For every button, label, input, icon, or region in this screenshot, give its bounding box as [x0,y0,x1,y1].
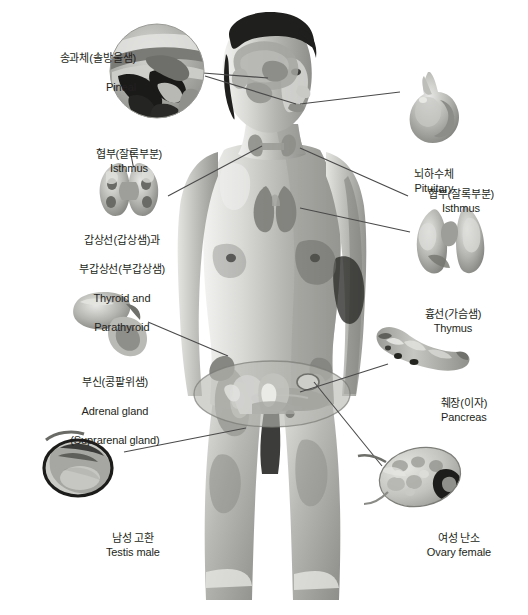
label-testis-english: Testis male [106,546,160,558]
label-pancreas: 췌장(이자) Pancreas [398,381,518,439]
label-pineal-english: Pineal [106,81,136,93]
label-isthmus-right-korean: 협부(잘록부분) [428,188,495,200]
label-adrenal: 부신(콩팥위샘) Adrenal gland (Suprarenal gland… [44,360,174,462]
label-thyroid-english-1: Thyroid and [93,292,150,304]
label-thyroid-english-2: Parathyroid [94,321,149,333]
label-thymus-english: Thymus [434,322,473,334]
label-isthmus-left-english: Isthmus [110,162,148,174]
label-testis-korean: 남성 고환 [112,532,155,544]
label-ovary: 여성 난소 Ovary female [386,516,520,574]
label-pineal-korean: 송과체(솔방울샘) [60,52,136,64]
label-ovary-korean: 여성 난소 [438,532,481,544]
body-figure [178,12,367,600]
label-isthmus-right-english: Isthmus [442,202,480,214]
ovary-ligament [358,455,386,462]
label-isthmus-right: 협부(잘록부분) Isthmus [390,172,520,230]
label-adrenal-english-2: (Suprarenal gland) [70,434,159,446]
label-thymus: 흉선(가슴샘) Thymus [382,292,512,350]
pelvis-oval-overlay [194,361,350,427]
label-thyroid-korean-1: 갑상선(갑상샘)과 [84,234,160,246]
label-thymus-korean: 흉선(가슴샘) [425,308,482,320]
label-ovary-english: Ovary female [427,546,491,558]
label-thyroid-parathyroid: 갑상선(갑상샘)과 부갑상선(부갑상샘) Thyroid and Parathy… [56,218,176,349]
label-pancreas-korean: 췌장(이자) [441,397,488,409]
label-adrenal-korean: 부신(콩팥위샘) [82,376,149,388]
label-isthmus-left: 협부(잘록부분) Isthmus [58,132,188,190]
ovary-inset [358,440,466,514]
label-thyroid-korean-2: 부갑상선(부갑상샘) [79,263,165,275]
label-adrenal-english-1: Adrenal gland [82,405,149,417]
pituitary-inset [410,72,459,143]
leader-pituitary [300,92,400,104]
label-isthmus-left-korean: 협부(잘록부분) [96,148,163,160]
label-testis: 남성 고환 Testis male [62,516,192,574]
label-pineal: 송과체(솔방울샘) Pineal [26,36,136,109]
endocrine-diagram: 송과체(솔방울샘) Pineal 협부(잘록부분) Isthmus 갑상선(갑상… [0,0,528,615]
label-pancreas-english: Pancreas [441,411,487,423]
